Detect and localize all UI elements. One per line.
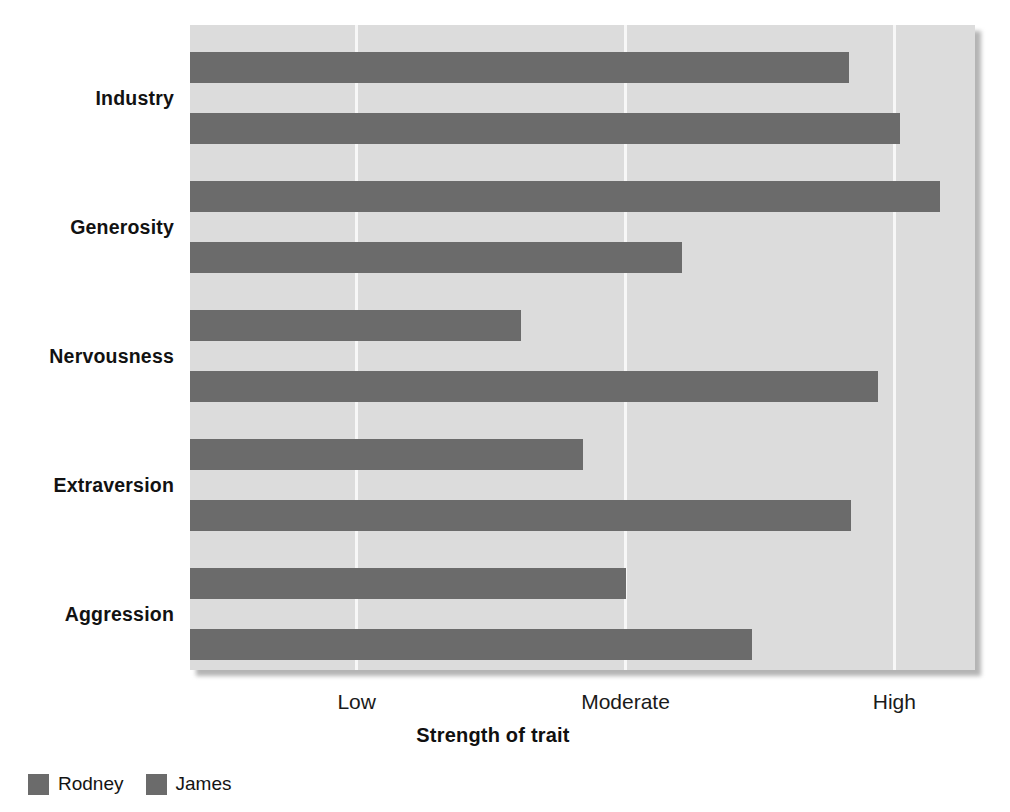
y-axis-category-labels: Industry Generosity Nervousness Extraver… — [0, 25, 182, 670]
bar-aggression-james — [190, 629, 752, 660]
bar-industry-james — [190, 113, 900, 144]
y-axis-label-aggression: Aggression — [0, 603, 174, 626]
bar-extraversion-rodney — [190, 439, 583, 470]
bar-nervousness-james — [190, 371, 878, 402]
bar-generosity-james — [190, 242, 682, 273]
y-axis-label-generosity: Generosity — [0, 216, 174, 239]
y-axis-label-nervousness: Nervousness — [0, 345, 174, 368]
legend-swatch-icon-rodney — [28, 774, 49, 795]
x-axis-title-text: Strength of trait — [416, 724, 569, 747]
bar-generosity-rodney — [190, 181, 940, 212]
x-tick-moderate: Moderate — [581, 690, 670, 714]
x-tick-high: High — [873, 690, 916, 714]
plot-area — [190, 25, 975, 670]
y-axis-label-extraversion: Extraversion — [0, 474, 174, 497]
x-tick-low: Low — [337, 690, 376, 714]
bar-industry-rodney — [190, 52, 849, 83]
x-axis-title: Strength of trait — [0, 724, 1010, 747]
chart-legend: Rodney James — [28, 773, 231, 795]
legend-label-james: James — [176, 773, 232, 795]
bar-aggression-rodney — [190, 568, 626, 599]
bar-nervousness-rodney — [190, 310, 521, 341]
legend-label-rodney: Rodney — [58, 773, 124, 795]
bar-extraversion-james — [190, 500, 851, 531]
x-axis-tick-labels: Low Moderate High — [0, 690, 1010, 720]
chart-figure: Industry Generosity Nervousness Extraver… — [0, 0, 1010, 812]
legend-swatch-icon-james — [146, 774, 167, 795]
y-axis-label-industry: Industry — [0, 87, 174, 110]
legend-item-james: James — [146, 773, 232, 795]
legend-item-rodney: Rodney — [28, 773, 124, 795]
